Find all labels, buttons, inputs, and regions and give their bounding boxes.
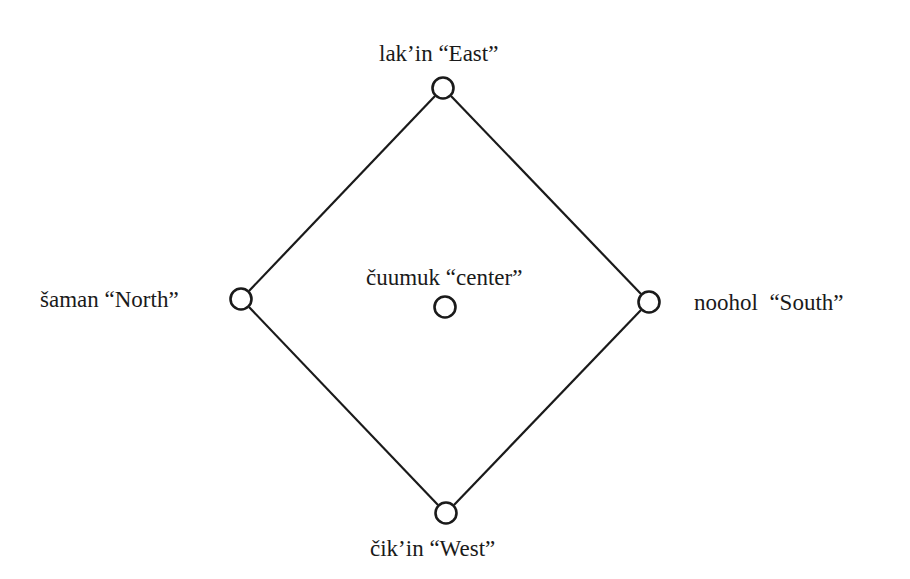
label-center: čuumuk “center” [366, 266, 522, 289]
node-south-circle [639, 292, 660, 313]
diamond-nodes [231, 78, 660, 524]
label-west: čik’in “West” [370, 537, 495, 560]
edge-south-west [454, 310, 641, 505]
label-south: noohol “South” [694, 291, 844, 314]
node-west-circle [436, 503, 457, 524]
node-east-circle [433, 78, 454, 99]
label-north: šaman “North” [40, 288, 179, 311]
node-north-circle [231, 289, 252, 310]
label-east: lak’in “East” [379, 42, 498, 65]
edge-north-east [249, 96, 435, 291]
node-center-circle [435, 297, 456, 318]
edge-west-north [249, 307, 438, 505]
